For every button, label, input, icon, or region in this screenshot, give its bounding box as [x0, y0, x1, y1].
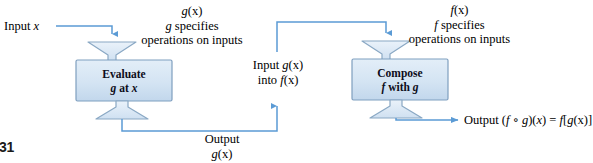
compose-line1: Compose — [352, 67, 448, 81]
output-g-arg: (x) — [218, 147, 233, 161]
final-equals: ) = — [542, 113, 559, 127]
evaluate-var-g: g — [111, 82, 117, 94]
final-bracket-close: ] — [588, 113, 592, 127]
output-g-label: Output g(x) — [167, 132, 277, 161]
composition-ring-icon: ∘ — [510, 113, 522, 127]
middle-input-into: into — [258, 73, 277, 87]
f-specifies: specifies — [441, 18, 485, 32]
g-arg: (x) — [188, 4, 203, 18]
middle-input-f-arg: (x) — [284, 73, 299, 87]
compose-var-f: f — [381, 81, 385, 93]
g-var: g — [165, 19, 171, 33]
figure-canvas: Input x g(x) g specifies operations on i… — [0, 0, 593, 163]
g-annotation-line2: g specifies — [117, 19, 267, 34]
f-arg: (x) — [454, 3, 469, 17]
input-x-word: Input — [4, 19, 30, 33]
output-g-word: Output — [167, 132, 277, 147]
funnel-out-of-evaluate — [96, 101, 148, 119]
evaluate-line1: Evaluate — [76, 68, 172, 82]
evaluate-line2: g at x — [76, 82, 172, 96]
g-annotation-line1: g(x) — [117, 4, 267, 19]
compose-line2: f with g — [352, 81, 448, 95]
middle-input-line2: into f(x) — [228, 73, 328, 88]
final-output-label: Output (f ∘ g)(x) = f[g(x)] — [464, 113, 592, 128]
f-annotation-line3: operations on inputs — [382, 32, 537, 47]
f-annotation-line1: f(x) — [382, 3, 537, 18]
evaluate-box-text: Evaluate g at x — [76, 68, 172, 95]
f-annotation: f(x) f specifies operations on inputs — [382, 3, 537, 47]
compose-var-g: g — [413, 81, 419, 93]
input-x-connector — [56, 26, 112, 34]
compose-box-text: Compose f with g — [352, 67, 448, 94]
final-output-word: Output — [464, 113, 499, 127]
evaluate-var-x: x — [132, 82, 138, 94]
output-g-expr: g(x) — [167, 147, 277, 162]
middle-input-g-arg: (x) — [289, 58, 304, 72]
middle-input-label: Input g(x) into f(x) — [228, 58, 328, 87]
g-annotation-line3: operations on inputs — [117, 33, 267, 48]
g-annotation: g(x) g specifies operations on inputs — [117, 4, 267, 48]
funnel-out-of-compose — [370, 100, 422, 118]
middle-input-line1: Input g(x) — [228, 58, 328, 73]
input-x-label: Input x — [4, 19, 39, 34]
final-g2-arg: (x) — [573, 113, 588, 127]
f-var: f — [434, 18, 437, 32]
page-number: 31 — [0, 139, 14, 155]
evaluate-at: at — [119, 82, 129, 94]
middle-to-compose-connector — [277, 22, 386, 52]
input-x-var: x — [34, 19, 40, 33]
f-annotation-line2: f specifies — [382, 18, 537, 33]
g-specifies: specifies — [175, 19, 219, 33]
middle-input-word: Input — [253, 58, 279, 72]
compose-with: with — [388, 81, 410, 93]
